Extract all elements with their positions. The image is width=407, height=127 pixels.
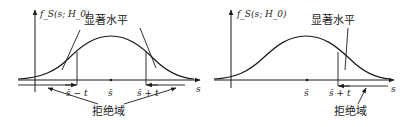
density-curve [18, 36, 194, 79]
density-curve [214, 36, 390, 79]
x-axis-label: s [391, 84, 396, 94]
one-tailed-panel: f_S(s; H_0) 显著水平 s̄ s̄ + t s 拒绝域 [214, 9, 396, 118]
right-bound-label: s̄ + t [329, 88, 351, 98]
significance-label: 显著水平 [84, 13, 128, 27]
center-tick-label: s̄ [108, 88, 113, 98]
x-axis-label: s [196, 84, 201, 94]
rejection-arrow [358, 88, 366, 104]
left-bound-label: s̄ − t [66, 88, 88, 98]
significance-pointer [345, 28, 348, 70]
rejection-label: 拒绝域 [92, 104, 125, 118]
right-bound-label: s̄ + t [137, 88, 159, 98]
center-tick-label: s̄ [304, 88, 309, 98]
two-tailed-panel: f_S(s; H_0) 显著水平 s̄ − t s̄ s̄ + t s 拒绝域 [18, 9, 201, 118]
significance-label: 显著水平 [311, 13, 355, 27]
rejection-label: 拒绝域 [334, 104, 367, 118]
y-axis-label: f_S(s; H_0) [39, 9, 90, 20]
y-axis-label: f_S(s; H_0) [236, 9, 287, 20]
